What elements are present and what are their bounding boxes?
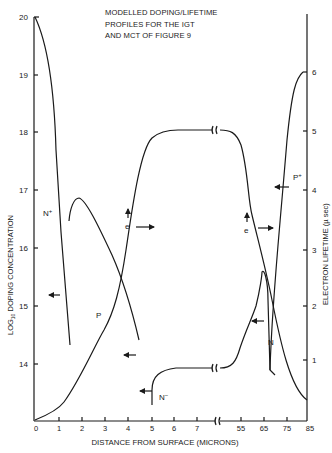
svg-text:0: 0 — [34, 424, 38, 433]
curve-n-doping — [152, 271, 275, 405]
svg-text:16: 16 — [19, 244, 28, 253]
curve-n-plus-doping — [35, 17, 70, 345]
svg-text:19: 19 — [19, 71, 28, 80]
svg-text:14: 14 — [19, 360, 28, 369]
svg-text:18: 18 — [19, 128, 28, 137]
svg-text:2: 2 — [80, 424, 84, 433]
svg-text:15: 15 — [19, 302, 28, 311]
label-p: P — [96, 311, 101, 320]
svg-text:7: 7 — [195, 424, 199, 433]
svg-text:3: 3 — [103, 424, 107, 433]
svg-text:4: 4 — [312, 186, 317, 195]
left-axis-title: LOG10 DOPING CONCENTRATION — [6, 215, 16, 335]
svg-text:1: 1 — [312, 356, 317, 365]
x-tick-labels: 0 1 2 3 4 5 6 7 55 65 75 85 — [34, 424, 314, 433]
curve-electron-lifetime — [35, 130, 307, 420]
curve-p-doping — [69, 198, 139, 340]
svg-text:55: 55 — [237, 424, 245, 433]
svg-text:6: 6 — [312, 68, 317, 77]
label-n-plus: N+ — [43, 208, 53, 218]
label-n-minus: N− — [159, 392, 169, 402]
label-n: N — [268, 338, 274, 347]
label-p-plus: P+ — [293, 172, 302, 182]
svg-text:5: 5 — [312, 127, 317, 136]
svg-text:20: 20 — [19, 13, 28, 22]
svg-text:17: 17 — [19, 186, 28, 195]
svg-text:75: 75 — [283, 424, 291, 433]
left-ticks — [34, 17, 39, 364]
chart-plot: 20 19 18 17 16 15 14 6 5 4 3 2 1 0 1 2 3… — [0, 0, 332, 453]
right-tick-labels: 6 5 4 3 2 1 — [312, 68, 317, 365]
curve-p-plus-doping — [270, 72, 303, 370]
left-tick-labels: 20 19 18 17 16 15 14 — [19, 13, 28, 369]
x-axis-title: DISTANCE FROM SURFACE (MICRONS) — [91, 438, 239, 447]
svg-text:65: 65 — [260, 424, 268, 433]
svg-text:1: 1 — [57, 424, 61, 433]
region-labels: N+ P N− N P+ e e — [43, 172, 302, 402]
svg-text:2: 2 — [312, 302, 317, 311]
svg-text:4: 4 — [126, 424, 130, 433]
svg-text:6: 6 — [172, 424, 176, 433]
svg-text:3: 3 — [312, 246, 317, 255]
svg-text:5: 5 — [150, 424, 154, 433]
right-axis-title: ELECTRON LIFETIME (µ sec) — [321, 203, 330, 305]
label-e-1: e — [125, 222, 130, 231]
svg-text:85: 85 — [306, 424, 314, 433]
label-e-2: e — [244, 226, 249, 235]
